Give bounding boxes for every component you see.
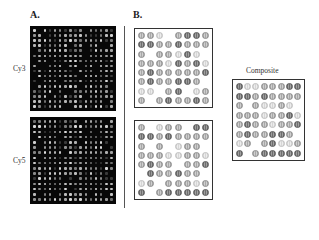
fluorescent-spot	[59, 95, 62, 98]
fluorescent-spot	[38, 172, 41, 175]
fluorescent-spot	[54, 90, 57, 93]
fluorescent-spot	[74, 183, 77, 186]
fluorescent-spot	[49, 188, 52, 191]
fluorescent-spot	[105, 188, 108, 191]
fluorescent-spot	[44, 177, 47, 180]
fluorescent-spot	[54, 100, 57, 103]
array-spot	[165, 60, 172, 67]
fluorescent-spot	[44, 90, 47, 93]
fluorescent-spot	[54, 120, 57, 123]
array-spot	[156, 60, 163, 67]
fluorescent-spot	[54, 44, 57, 47]
fluorescent-spot	[110, 75, 113, 78]
fluorescent-spot	[95, 136, 98, 139]
array-spot	[202, 32, 209, 39]
fluorescent-spot	[54, 49, 57, 52]
array-spot	[165, 124, 172, 131]
array-spot	[175, 124, 182, 131]
fluorescent-spot	[44, 29, 47, 32]
fluorescent-spot	[105, 162, 108, 165]
fluorescent-spot	[105, 125, 108, 128]
fluorescent-spot	[95, 183, 98, 186]
fluorescent-spot	[90, 29, 93, 32]
fluorescent-spot	[74, 177, 77, 180]
fluorescent-spot	[54, 193, 57, 196]
fluorescent-spot	[74, 193, 77, 196]
fluorescent-spot	[95, 29, 98, 32]
fluorescent-spot	[110, 125, 113, 128]
fluorescent-spot	[69, 80, 72, 83]
array-spot	[252, 112, 259, 119]
fluorescent-spot	[59, 44, 62, 47]
fluorescent-spot	[33, 141, 36, 144]
fluorescent-spot	[85, 188, 88, 191]
fluorescent-spot	[59, 85, 62, 88]
fluorescent-spot	[90, 146, 93, 149]
array-spot	[165, 78, 172, 85]
array-spot	[175, 69, 182, 76]
fluorescent-spot	[49, 75, 52, 78]
fluorescent-spot	[74, 49, 77, 52]
array-spot	[202, 189, 209, 196]
fluorescent-spot	[90, 151, 93, 154]
fluorescent-spot	[44, 136, 47, 139]
fluorescent-spot	[49, 80, 52, 83]
fluorescent-spot	[110, 177, 113, 180]
fluorescent-spot	[95, 105, 98, 108]
array-spot	[165, 161, 172, 168]
array-spot	[294, 150, 301, 157]
fluorescent-spot	[74, 80, 77, 83]
fluorescent-spot	[64, 39, 67, 42]
array-spot	[138, 88, 145, 95]
fluorescent-spot	[90, 100, 93, 103]
fluorescent-spot	[85, 146, 88, 149]
array-spot	[202, 133, 209, 140]
fluorescent-spot	[33, 146, 36, 149]
fluorescent-spot	[33, 29, 36, 32]
array-spot	[184, 180, 191, 187]
fluorescent-spot	[105, 95, 108, 98]
fluorescent-spot	[85, 131, 88, 134]
fluorescent-spot	[85, 29, 88, 32]
fluorescent-spot	[100, 75, 103, 78]
fluorescent-spot	[38, 39, 41, 42]
fluorescent-spot	[64, 85, 67, 88]
fluorescent-spot	[54, 85, 57, 88]
array-spot	[261, 83, 268, 90]
fluorescent-spot	[44, 60, 47, 63]
fluorescent-spot	[38, 55, 41, 58]
fluorescent-spot	[90, 177, 93, 180]
fluorescent-spot	[110, 198, 113, 201]
array-spot	[138, 69, 145, 76]
fluorescent-spot	[100, 60, 103, 63]
fluorescent-spot	[74, 141, 77, 144]
array-spot	[156, 78, 163, 85]
array-spot	[269, 83, 276, 90]
array-spot	[138, 51, 145, 58]
array-spot	[193, 51, 200, 58]
fluorescent-spot	[33, 167, 36, 170]
array-spot	[147, 41, 154, 48]
fluorescent-spot	[64, 34, 67, 37]
array-spot	[184, 161, 191, 168]
fluorescent-spot	[64, 105, 67, 108]
fluorescent-spot	[110, 80, 113, 83]
fluorescent-spot	[100, 157, 103, 160]
fluorescent-spot	[54, 34, 57, 37]
fluorescent-spot	[90, 125, 93, 128]
fluorescent-spot	[95, 60, 98, 63]
fluorescent-spot	[49, 105, 52, 108]
fluorescent-spot	[54, 162, 57, 165]
fluorescent-spot	[95, 146, 98, 149]
fluorescent-spot	[85, 60, 88, 63]
fluorescent-spot	[64, 157, 67, 160]
fluorescent-spot	[90, 188, 93, 191]
fluorescent-spot	[90, 183, 93, 186]
fluorescent-spot	[49, 55, 52, 58]
fluorescent-spot	[110, 100, 113, 103]
fluorescent-spot	[85, 136, 88, 139]
array-spot	[278, 150, 285, 157]
fluorescent-spot	[85, 85, 88, 88]
array-spot	[202, 69, 209, 76]
fluorescent-spot	[79, 70, 82, 73]
